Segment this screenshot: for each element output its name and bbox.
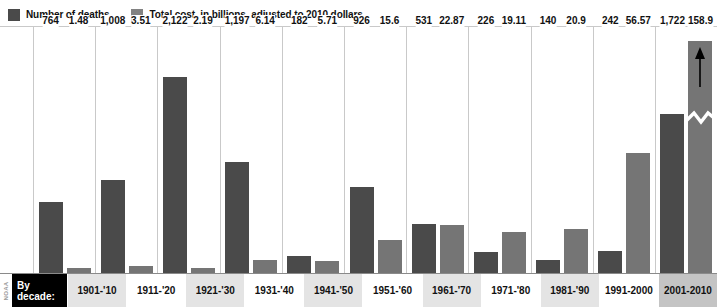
bar-value-label: 764 — [42, 15, 59, 27]
bar-rect-cost — [688, 41, 712, 273]
bar-cost[interactable]: 6.14 — [253, 27, 277, 273]
bar-group: 24256.57 — [594, 27, 655, 273]
bar-group: 1,722158.9 — [656, 27, 717, 273]
bar-group: 1,0083.51 — [96, 27, 157, 273]
bar-rect-cost — [253, 260, 277, 273]
bar-value-label: 3.51 — [131, 15, 150, 27]
bar-deaths[interactable]: 1,722 — [660, 27, 684, 273]
bar-value-label: 19.11 — [502, 15, 526, 27]
legend-swatch-icon — [8, 9, 20, 21]
bar-rect-cost — [129, 266, 153, 273]
bar-rect-cost — [378, 240, 402, 273]
bar-value-label: 1,722 — [660, 15, 685, 27]
bar-rect-deaths — [287, 256, 311, 273]
bar-group: 53122.87 — [407, 27, 468, 273]
bar-rect-cost — [502, 232, 526, 273]
bar-cost[interactable]: 1.48 — [67, 27, 91, 273]
axis-title-line2: decade: — [17, 291, 67, 302]
axis-tick-label: 1941-'50 — [303, 274, 362, 307]
bar-group: 14020.9 — [532, 27, 593, 273]
bar-deaths[interactable]: 1,008 — [101, 27, 125, 273]
bar-value-label: 926 — [353, 15, 370, 27]
axis-title-line1: By — [17, 280, 67, 291]
bar-value-label: 56.57 — [626, 15, 651, 27]
bar-group: 92615.6 — [345, 27, 406, 273]
bar-value-label: 5.71 — [318, 15, 337, 27]
bar-rect-cost — [315, 261, 339, 273]
bar-rect-cost — [440, 225, 464, 274]
bar-value-label: 6.14 — [255, 15, 274, 27]
bar-value-label: 158.9 — [688, 15, 713, 27]
bar-rect-deaths — [412, 224, 436, 273]
bar-rect-deaths — [163, 77, 187, 273]
axis-tick-label: 1991-2000 — [599, 274, 658, 307]
bar-deaths[interactable]: 2,122 — [163, 27, 187, 273]
bar-deaths[interactable]: 1,197 — [225, 27, 249, 273]
axis-tick-label: 1971-'80 — [481, 274, 540, 307]
bar-value-label: 22.87 — [439, 15, 464, 27]
bar-deaths[interactable]: 926 — [350, 27, 374, 273]
bar-cost[interactable]: 22.87 — [440, 27, 464, 273]
bar-group: 1,1976.14 — [221, 27, 282, 273]
bar-deaths[interactable]: 242 — [598, 27, 622, 273]
bar-rect-deaths — [350, 187, 374, 273]
bar-cost[interactable]: 19.11 — [502, 27, 526, 273]
axis-break-icon — [685, 109, 715, 127]
decade-column: 1825.71 — [282, 27, 344, 273]
bar-cost[interactable]: 158.9 — [688, 27, 712, 273]
axis-tick-label: 1911-'20 — [126, 274, 185, 307]
axis-title: By decade: — [12, 274, 67, 307]
bar-value-label: 2,122 — [162, 15, 187, 27]
decade-column: 24256.57 — [593, 27, 655, 273]
chart-container: Number of deaths Total cost, in billions… — [0, 0, 717, 307]
bar-value-label: 531 — [415, 15, 432, 27]
x-axis-strip: NOAA By decade: 1901-'101911-'201921-'30… — [0, 273, 717, 307]
bar-value-label: 226 — [478, 15, 495, 27]
bar-deaths[interactable]: 140 — [536, 27, 560, 273]
bar-rect-deaths — [101, 180, 125, 273]
bar-rect-cost — [626, 153, 650, 273]
plot-area: 7641.481,0083.512,1222.191,1976.141825.7… — [0, 27, 717, 273]
decade-column: 92615.6 — [344, 27, 406, 273]
bar-rect-deaths — [598, 251, 622, 273]
bar-deaths[interactable]: 764 — [39, 27, 63, 273]
bar-cost[interactable]: 2.19 — [191, 27, 215, 273]
source-credit-label: NOAA — [3, 281, 9, 300]
bar-value-label: 1,197 — [225, 15, 250, 27]
axis-tick-label: 1981-'90 — [540, 274, 599, 307]
bar-value-label: 1.48 — [69, 15, 88, 27]
bar-cost[interactable]: 20.9 — [564, 27, 588, 273]
decade-column: 1,722158.9 — [655, 27, 717, 273]
bar-cost[interactable]: 5.71 — [315, 27, 339, 273]
bar-deaths[interactable]: 531 — [412, 27, 436, 273]
bar-deaths[interactable]: 182 — [287, 27, 311, 273]
bar-value-label: 15.6 — [380, 15, 399, 27]
bar-cost[interactable]: 15.6 — [378, 27, 402, 273]
bar-group: 2,1222.19 — [158, 27, 219, 273]
bar-value-label: 182 — [291, 15, 308, 27]
bar-rect-deaths — [660, 114, 684, 273]
decade-column: 53122.87 — [406, 27, 468, 273]
decade-column: 1,0083.51 — [95, 27, 157, 273]
axis-tick-label: 1961-'70 — [422, 274, 481, 307]
bar-rect-deaths — [39, 202, 63, 273]
bar-value-label: 2.19 — [193, 15, 212, 27]
axis-tick-label: 1901-'10 — [67, 274, 126, 307]
bar-deaths[interactable]: 226 — [474, 27, 498, 273]
decade-column: 1,1976.14 — [220, 27, 282, 273]
arrow-up-icon — [695, 47, 706, 87]
bar-value-label: 1,008 — [100, 15, 125, 27]
bar-group: 7641.48 — [34, 27, 95, 273]
bar-rect-deaths — [536, 260, 560, 273]
legend-label-deaths: Number of deaths — [26, 9, 109, 21]
bar-rect-deaths — [474, 252, 498, 273]
bar-rect-cost — [564, 229, 588, 273]
bar-group: 22619.11 — [469, 27, 530, 273]
plot-left-margin — [0, 27, 33, 273]
bar-value-label: 140 — [540, 15, 557, 27]
bar-rect-deaths — [225, 162, 249, 273]
bar-cost[interactable]: 56.57 — [626, 27, 650, 273]
bar-cost[interactable]: 3.51 — [129, 27, 153, 273]
decade-column: 2,1222.19 — [157, 27, 219, 273]
decade-column: 22619.11 — [468, 27, 530, 273]
